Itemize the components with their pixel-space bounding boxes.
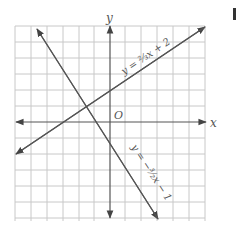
coordinate-plane: y x O y = ⅔x + 2 y = −³⁄₂x − 1 — [0, 0, 237, 234]
x-axis-label: x — [210, 116, 217, 130]
y-axis-label: y — [105, 11, 113, 25]
axes — [16, 26, 206, 218]
corner-mark — [233, 8, 236, 20]
origin-label: O — [114, 109, 123, 122]
line-2-label: y = −³⁄₂x − 1 — [129, 141, 174, 203]
